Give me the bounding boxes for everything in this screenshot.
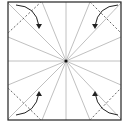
center-point xyxy=(64,59,67,62)
arrow-top-right-icon xyxy=(95,5,118,26)
arrow-bottom-left-icon xyxy=(16,93,39,115)
fold-diagram xyxy=(0,0,127,130)
